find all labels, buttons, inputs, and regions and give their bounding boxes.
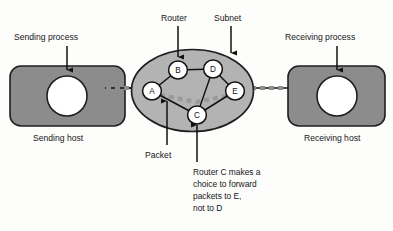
receiving-process-circle [317, 76, 357, 116]
subnet-label: Subnet [214, 13, 242, 23]
receiving-host-label: Receiving host [304, 133, 361, 143]
diagram-canvas: A B C D E Sending process Sending host R… [0, 0, 393, 231]
router-c-note: Router C makes a choice to forward packe… [193, 167, 261, 213]
router-node-b[interactable]: B [169, 61, 188, 79]
router-e-label: E [232, 87, 238, 96]
router-c-note-line-1: Router C makes a [193, 167, 261, 177]
router-node-e[interactable]: E [226, 82, 245, 100]
router-a-label: A [149, 87, 155, 96]
router-c-note-line-3: packets to E, [193, 191, 241, 201]
sending-process-circle [47, 76, 87, 116]
router-d-label: D [210, 65, 216, 74]
receiving-process-label: Receiving process [285, 32, 355, 42]
router-node-d[interactable]: D [204, 60, 223, 78]
router-label: Router [161, 13, 187, 23]
router-c-note-line-4: not to D [193, 203, 222, 213]
sending-host-group [10, 66, 125, 126]
router-c-note-line-2: choice to forward [193, 179, 257, 189]
router-c-label: C [194, 111, 200, 120]
router-node-c[interactable]: C [188, 106, 207, 124]
sending-host-label: Sending host [33, 133, 84, 143]
receiving-host-group [288, 66, 385, 126]
router-node-a[interactable]: A [143, 82, 162, 100]
packet-label: Packet [145, 150, 172, 160]
sending-process-label: Sending process [14, 32, 78, 42]
router-b-label: B [175, 66, 181, 75]
network-diagram: A B C D E Sending process Sending host R… [0, 0, 393, 231]
